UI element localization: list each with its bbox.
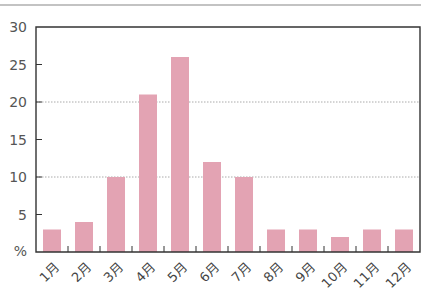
x-tick-label: 3月	[100, 260, 126, 286]
x-tick-label: 4月	[132, 260, 158, 286]
y-tick-label: 20	[9, 94, 27, 110]
x-tick-label: 7月	[228, 260, 254, 286]
bar-9	[299, 230, 317, 253]
plot-frame	[36, 27, 420, 252]
y-tick-label: 25	[9, 57, 27, 73]
bars	[43, 57, 413, 252]
bar-11	[363, 230, 381, 253]
bar-1	[43, 230, 61, 253]
bar-10	[331, 237, 349, 252]
bar-2	[75, 222, 93, 252]
x-tick-label: 9月	[292, 260, 318, 286]
bar-5	[171, 57, 189, 252]
bar-7	[235, 177, 253, 252]
y-axis-ticks: 51015202530%	[9, 19, 42, 259]
y-tick-label: 30	[9, 19, 27, 35]
y-tick-label: 15	[9, 132, 27, 148]
x-axis-ticks: 1月2月3月4月5月6月7月8月9月10月11月12月	[36, 246, 414, 291]
bar-4	[139, 95, 157, 253]
x-tick-label: 5月	[164, 260, 190, 286]
axes	[36, 27, 420, 252]
x-tick-label: 6月	[196, 260, 222, 286]
bar-6	[203, 162, 221, 252]
y-tick-label: 10	[9, 169, 27, 185]
x-tick-label: 8月	[260, 260, 286, 286]
y-tick-label: 5	[18, 207, 27, 223]
x-tick-label: 1月	[36, 260, 62, 286]
y-unit-label: %	[14, 243, 27, 259]
x-tick-label: 2月	[68, 260, 94, 286]
gridlines	[36, 102, 420, 177]
bar-8	[267, 230, 285, 253]
x-tick-label: 12月	[383, 260, 414, 291]
bar-chart: 51015202530% 1月2月3月4月5月6月7月8月9月10月11月12月	[0, 0, 434, 307]
x-tick-label: 10月	[319, 260, 350, 291]
bar-3	[107, 177, 125, 252]
x-tick-label: 11月	[351, 260, 382, 291]
bar-12	[395, 230, 413, 253]
